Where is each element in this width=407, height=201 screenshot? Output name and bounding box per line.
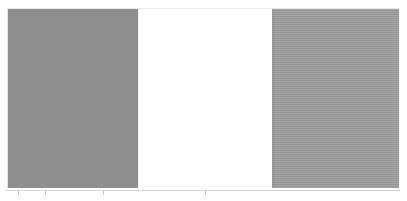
axis-tick	[45, 191, 46, 195]
color-band-right[interactable]	[272, 9, 399, 188]
axis-rule	[6, 190, 400, 191]
axis-tick	[103, 191, 104, 195]
tri-band-color-panel	[7, 8, 399, 188]
color-band-center[interactable]	[138, 9, 273, 188]
band-seam-left	[138, 9, 139, 188]
band-seam-right	[273, 9, 274, 188]
axis-tick	[205, 191, 206, 195]
axis-tick	[18, 191, 19, 195]
screenshot-viewport	[0, 0, 407, 201]
baseline-axis	[6, 190, 400, 201]
color-band-left[interactable]	[8, 9, 138, 188]
